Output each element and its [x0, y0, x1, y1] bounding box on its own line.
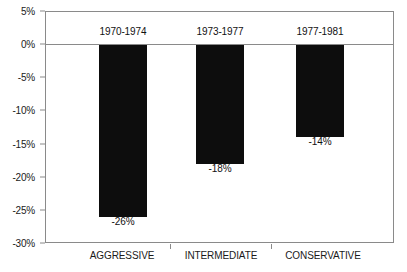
value-label-aggressive: -26% — [112, 216, 135, 227]
bar-aggressive — [99, 45, 147, 217]
y-tick-label: 5% — [21, 6, 35, 17]
y-tick-label: -25% — [12, 205, 35, 216]
category-label-intermediate: INTERMEDIATE — [185, 250, 258, 261]
y-tick-label: -20% — [12, 172, 35, 183]
value-label-conservative: -14% — [309, 136, 332, 147]
y-tick-label: -15% — [12, 139, 35, 150]
category-separator — [170, 244, 171, 249]
period-label-intermediate: 1973-1977 — [197, 26, 244, 37]
bar-chart: 5% 0% -5% -10% -15% -20% -25% -30% 1970-… — [0, 0, 407, 272]
y-tick-label: -10% — [12, 105, 35, 116]
period-label-conservative: 1977-1981 — [297, 26, 344, 37]
category-label-aggressive: AGGRESSIVE — [90, 250, 155, 261]
bar-intermediate — [196, 45, 244, 164]
y-tick-label: -30% — [12, 238, 35, 249]
plot-area — [45, 11, 394, 243]
y-axis: 5% 0% -5% -10% -15% -20% -25% -30% — [0, 0, 45, 272]
category-label-conservative: CONSERVATIVE — [285, 250, 361, 261]
period-label-aggressive: 1970-1974 — [100, 26, 147, 37]
y-tick-label: 0% — [21, 39, 35, 50]
y-tick-label: -5% — [18, 72, 35, 83]
value-label-intermediate: -18% — [209, 163, 232, 174]
bar-conservative — [296, 45, 344, 137]
category-separator — [271, 244, 272, 249]
